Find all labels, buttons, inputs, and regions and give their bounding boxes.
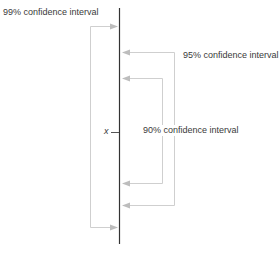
center-label: x	[104, 126, 109, 137]
arrow-left-icon	[122, 203, 130, 209]
label-95-interval: 95% confidence interval	[182, 50, 280, 61]
arrow-left-icon	[122, 76, 130, 82]
arrow-left-icon	[122, 50, 130, 56]
label-99-interval: 99% confidence interval	[3, 7, 99, 18]
label-90-interval: 90% confidence interval	[142, 125, 240, 136]
arrow-right-icon	[110, 24, 118, 30]
arrow-right-icon	[110, 225, 118, 231]
arrow-left-icon	[122, 181, 130, 187]
